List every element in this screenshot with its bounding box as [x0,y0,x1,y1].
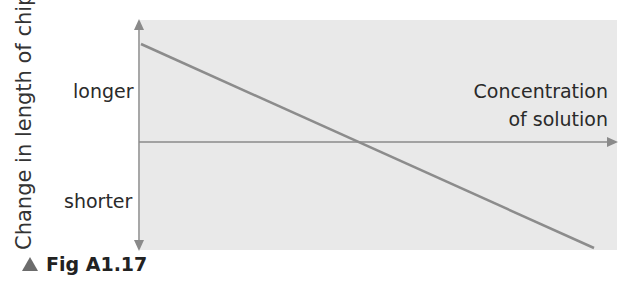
figure-caption: Fig A1.17 [22,253,147,275]
y-axis-label: Change in length of chip [12,0,36,250]
x-axis-arrow-icon [607,137,618,147]
data-line [141,44,594,248]
y-tick-longer: longer [73,80,134,102]
plot-area [0,0,642,291]
x-axis-label-line1: Concentration [474,77,608,105]
y-tick-shorter: shorter [64,190,132,212]
figure-label: Fig A1.17 [46,253,147,275]
y-axis-up-arrow-icon [134,19,144,30]
triangle-icon [22,257,38,271]
x-axis-label-line2: of solution [474,105,608,133]
x-axis-label: Concentration of solution [474,77,608,133]
y-axis-down-arrow-icon [134,240,144,251]
